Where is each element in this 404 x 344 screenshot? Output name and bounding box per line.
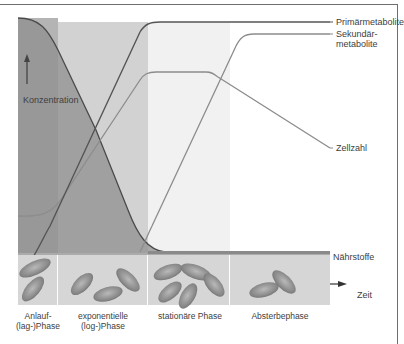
- phase-label-lag-line2: (lag-)Phase: [10, 321, 66, 331]
- cell-count-label: Zellzahl: [336, 143, 367, 153]
- y-axis-label: Konzentration: [23, 95, 79, 105]
- nutrients-baseline: [148, 251, 330, 254]
- phase-label-exp-line1: exponentielle: [68, 311, 138, 321]
- phase-label-death-line1: Absterbephase: [235, 311, 325, 321]
- x-axis-label: Zeit: [357, 290, 372, 300]
- stationary-phase-background: [148, 22, 230, 253]
- secondary-metabolites-label-line1: Sekundär-: [336, 29, 378, 39]
- phase-label-exponential: exponentielle (log-)Phase: [68, 311, 138, 331]
- nutrients-label: Nährstoffe: [333, 252, 374, 262]
- secondary-metabolites-label-line2: metabolite: [336, 39, 378, 49]
- phase-label-death: Absterbephase: [235, 311, 325, 321]
- phase-label-lag-line1: Anlauf-: [10, 311, 66, 321]
- phase-label-stationary-line1: stationäre Phase: [150, 311, 230, 321]
- phase-label-exp-line2: (log-)Phase: [68, 321, 138, 331]
- time-arrow-head: [338, 281, 347, 287]
- phase-label-stationary: stationäre Phase: [150, 311, 230, 321]
- primary-metabolites-label: Primärmetabolite: [336, 17, 404, 27]
- phase-label-lag: Anlauf- (lag-)Phase: [10, 311, 66, 331]
- growth-curve-diagram: [0, 0, 404, 344]
